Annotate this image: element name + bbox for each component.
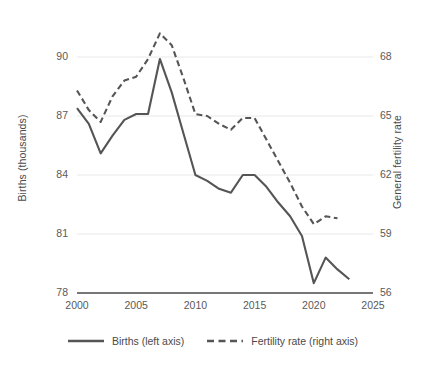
y-axis-right-tick: 62 xyxy=(380,168,410,180)
legend-label-fertility-rate: Fertility rate (right axis) xyxy=(251,335,358,347)
y-axis-right-tick: 65 xyxy=(380,109,410,121)
legend-label-births: Births (left axis) xyxy=(112,335,184,347)
y-axis-left-tick: 84 xyxy=(38,168,68,180)
x-axis-tick: 2000 xyxy=(57,299,97,311)
legend-swatch-dashed-icon xyxy=(206,336,244,346)
x-axis-tick: 2010 xyxy=(175,299,215,311)
chart-container: Births (thousands) General fertility rat… xyxy=(0,0,425,373)
y-axis-right-tick: 59 xyxy=(380,227,410,239)
legend-swatch-solid-icon xyxy=(67,336,105,346)
y-axis-right-tick: 56 xyxy=(380,286,410,298)
legend-item-births[interactable]: Births (left axis) xyxy=(67,335,184,347)
data-series-group xyxy=(77,33,349,283)
y-axis-right-tick: 68 xyxy=(380,50,410,62)
gridlines xyxy=(77,57,373,293)
x-axis-tick: 2020 xyxy=(294,299,334,311)
y-axis-left-tick: 81 xyxy=(38,227,68,239)
x-axis-tick: 2025 xyxy=(353,299,393,311)
series-line-right xyxy=(77,33,337,224)
y-axis-left-tick: 87 xyxy=(38,109,68,121)
chart-legend: Births (left axis) Fertility rate (right… xyxy=(0,335,425,347)
x-axis-tick: 2015 xyxy=(235,299,275,311)
y-axis-left-tick: 78 xyxy=(38,286,68,298)
y-axis-left-title: Births (thousands) xyxy=(16,98,28,218)
series-line-left xyxy=(77,59,349,283)
legend-item-fertility-rate[interactable]: Fertility rate (right axis) xyxy=(206,335,358,347)
y-axis-left-tick: 90 xyxy=(38,50,68,62)
x-axis-tick: 2005 xyxy=(116,299,156,311)
